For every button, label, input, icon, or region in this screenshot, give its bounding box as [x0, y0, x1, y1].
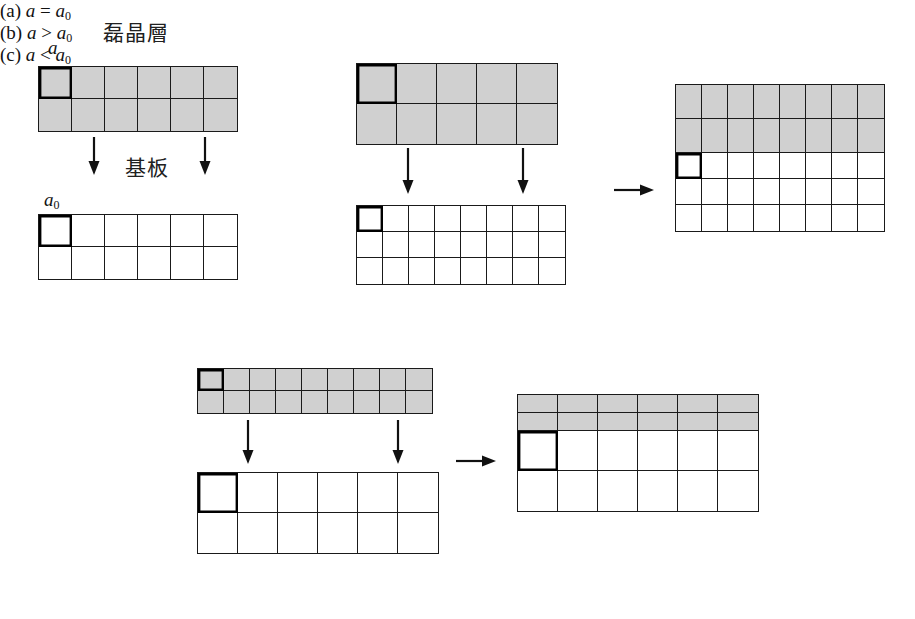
lattice-cell	[676, 205, 702, 231]
lattice-cell	[598, 395, 638, 413]
lattice-cell	[250, 369, 276, 391]
lattice-cell	[718, 471, 758, 511]
lattice-cell	[238, 473, 278, 513]
arrow-down-c-left	[240, 420, 256, 464]
lattice-cell	[832, 119, 858, 153]
lattice-cell	[204, 99, 237, 131]
lattice-cell	[437, 64, 477, 104]
lattice-cell	[806, 85, 832, 119]
arrow-right-c	[456, 453, 496, 469]
lattice-cell	[357, 64, 397, 104]
lattice-cell	[676, 119, 702, 153]
lattice-cell	[461, 232, 487, 258]
lattice-cell	[276, 369, 302, 391]
lattice-cell	[806, 153, 832, 179]
lattice-cell	[138, 67, 171, 99]
lattice-cell	[539, 258, 565, 284]
lattice-cell	[678, 413, 718, 431]
lattice-cell	[598, 471, 638, 511]
lattice-cell	[676, 153, 702, 179]
lattice-cell	[39, 215, 72, 247]
lattice-cell	[328, 391, 354, 413]
grid-b-result	[675, 84, 885, 232]
caption-panel-a: (a) a = a0	[0, 0, 915, 22]
lattice-cell	[638, 431, 678, 471]
lattice-cell	[780, 205, 806, 231]
lattice-cell	[204, 215, 237, 247]
lattice-cell	[171, 99, 204, 131]
lattice-cell	[357, 258, 383, 284]
lattice-cell	[409, 206, 435, 232]
lattice-cell	[858, 205, 884, 231]
arrow-right-b	[614, 182, 654, 198]
lattice-cell	[754, 153, 780, 179]
lattice-cell	[676, 179, 702, 205]
lattice-cell	[435, 258, 461, 284]
grid-c-substrate	[197, 472, 439, 554]
lattice-cell	[171, 67, 204, 99]
lattice-cell	[517, 64, 557, 104]
grid-c-result	[517, 394, 759, 512]
lattice-cell	[437, 104, 477, 144]
lattice-cell	[780, 85, 806, 119]
lattice-cell	[487, 258, 513, 284]
lattice-cell	[832, 153, 858, 179]
lattice-cell	[754, 85, 780, 119]
lattice-cell	[435, 232, 461, 258]
lattice-cell	[72, 215, 105, 247]
lattice-cell	[358, 473, 398, 513]
lattice-cell	[204, 67, 237, 99]
grid-b-substrate	[356, 205, 566, 285]
lattice-cell	[318, 473, 358, 513]
lattice-cell	[539, 232, 565, 258]
lattice-cell	[39, 67, 72, 99]
lattice-cell	[780, 119, 806, 153]
lattice-cell	[638, 471, 678, 511]
lattice-cell	[276, 391, 302, 413]
lattice-cell	[518, 395, 558, 413]
lattice-cell	[718, 413, 758, 431]
lattice-cell	[518, 471, 558, 511]
lattice-cell	[678, 431, 718, 471]
lattice-cell	[302, 391, 328, 413]
lattice-cell	[806, 179, 832, 205]
lattice-cell	[558, 413, 598, 431]
lattice-cell	[72, 247, 105, 279]
lattice-cell	[718, 431, 758, 471]
lattice-cell	[638, 413, 678, 431]
grid-a-epilayer	[38, 66, 238, 132]
lattice-cell	[487, 232, 513, 258]
lattice-cell	[558, 395, 598, 413]
lattice-cell	[138, 99, 171, 131]
arrow-down-c-right	[390, 420, 406, 464]
lattice-cell	[702, 179, 728, 205]
lattice-cell	[383, 232, 409, 258]
lattice-cell	[39, 99, 72, 131]
lattice-cell	[171, 215, 204, 247]
lattice-cell	[397, 64, 437, 104]
lattice-cell	[278, 473, 318, 513]
figure-canvas: a 磊晶層 a0 基板 (a) a = a0	[0, 0, 915, 619]
grid-a-substrate	[38, 214, 238, 280]
lattice-cell	[754, 119, 780, 153]
lattice-cell	[477, 104, 517, 144]
lattice-cell	[354, 391, 380, 413]
lattice-cell	[397, 104, 437, 144]
lattice-cell	[702, 119, 728, 153]
lattice-cell	[105, 247, 138, 279]
lattice-cell	[105, 67, 138, 99]
lattice-cell	[487, 206, 513, 232]
lattice-cell	[204, 247, 237, 279]
lattice-cell	[517, 104, 557, 144]
lattice-cell	[754, 179, 780, 205]
lattice-cell	[518, 431, 558, 471]
arrow-down-a-left	[86, 137, 102, 175]
lattice-cell	[728, 179, 754, 205]
lattice-cell	[357, 206, 383, 232]
lattice-cell	[539, 206, 565, 232]
lattice-cell	[72, 67, 105, 99]
label-a0-lattice-constant: a0	[44, 190, 60, 209]
lattice-cell	[380, 391, 406, 413]
lattice-cell	[780, 179, 806, 205]
lattice-cell	[702, 153, 728, 179]
